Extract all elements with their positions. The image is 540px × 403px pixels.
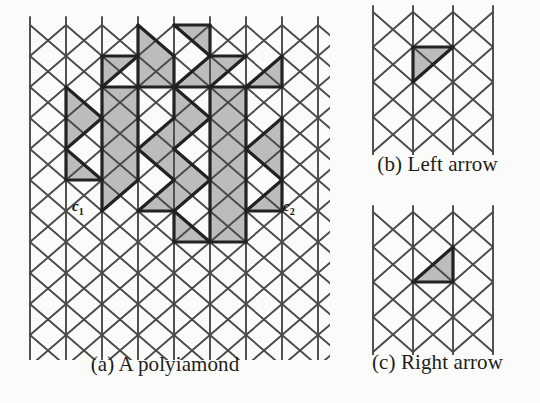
figure-root: c1 c2 (a) A polyiamond (b) Left arrow (c… — [0, 0, 540, 403]
panel-a-lattice — [0, 0, 330, 360]
panel-c-svg — [335, 200, 540, 355]
panel-b-left-arrow: (b) Left arrow — [335, 0, 540, 200]
caption-panel-c: (c) Right arrow — [335, 350, 540, 375]
panel-b-svg — [335, 0, 540, 155]
panel-c-right-arrow: (c) Right arrow — [335, 200, 540, 403]
lattice-lines-group — [373, 6, 493, 155]
panel-a-svg — [0, 0, 330, 360]
panel-c-lattice — [335, 200, 540, 355]
panel-a-polyiamond: c1 c2 (a) A polyiamond — [0, 0, 330, 403]
caption-panel-b: (b) Left arrow — [335, 152, 540, 177]
caption-panel-a: (a) A polyiamond — [0, 352, 330, 377]
panel-b-lattice — [335, 0, 540, 155]
